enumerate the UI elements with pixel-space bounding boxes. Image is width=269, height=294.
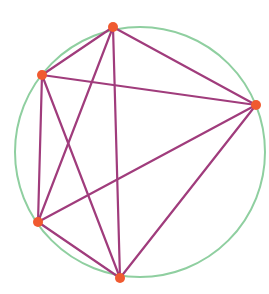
edge-B-C bbox=[42, 75, 256, 105]
k5-graph-diagram bbox=[0, 0, 269, 294]
edge-C-E bbox=[120, 105, 256, 278]
edge-A-B bbox=[42, 27, 113, 75]
edge-D-E bbox=[38, 222, 120, 278]
vertex-top bbox=[108, 22, 118, 32]
edge-B-D bbox=[38, 75, 42, 222]
edge-B-E bbox=[42, 75, 120, 278]
vertex-bottom bbox=[115, 273, 125, 283]
edge-C-D bbox=[38, 105, 256, 222]
circumscribed-circle bbox=[15, 27, 265, 277]
vertex-lower-left bbox=[33, 217, 43, 227]
edge-A-C bbox=[113, 27, 256, 105]
edge-A-D bbox=[38, 27, 113, 222]
vertex-upper-left bbox=[37, 70, 47, 80]
edge-A-E bbox=[113, 27, 120, 278]
vertex-right bbox=[251, 100, 261, 110]
graph-edges bbox=[38, 27, 256, 278]
